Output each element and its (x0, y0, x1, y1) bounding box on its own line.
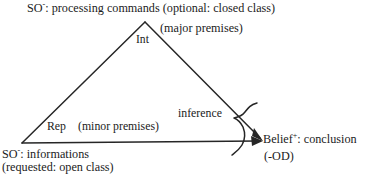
label-inference: inference (178, 107, 222, 120)
inference-brace-icon (232, 103, 257, 155)
label-minor-premises: (minor premises) (78, 120, 159, 133)
edge-rep-to-belief (22, 141, 258, 143)
arrowhead-rep-to-belief (251, 136, 263, 146)
label-requested-open-class: (requested: open class) (2, 161, 114, 175)
so-text-top: : processing commands (optional: closed … (45, 1, 275, 15)
label-apex-int: Int (136, 33, 149, 46)
label-vertex-belief-conclusion: Belief+: conclusion (263, 133, 357, 147)
label-major-premises: (major premises) (160, 22, 243, 36)
label-vertex-rep: Rep (47, 120, 66, 133)
label-so-minus-processing-commands: SO-: processing commands (optional: clos… (27, 2, 275, 16)
edge-int-to-belief (145, 22, 260, 138)
arrowhead-int-to-belief (252, 128, 263, 141)
label-od: (-OD) (264, 150, 294, 164)
so-text-bottom: : informations (20, 147, 89, 161)
belief-prefix: Belief (263, 132, 293, 146)
belief-text: : conclusion (297, 132, 356, 146)
so-prefix-bottom: SO (2, 147, 18, 161)
so-prefix-top: SO (27, 1, 43, 15)
inference-triangle-figure: SO-: processing commands (optional: clos… (0, 0, 366, 176)
